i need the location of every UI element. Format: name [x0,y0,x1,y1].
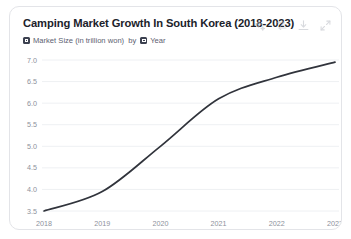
measure-label: Market Size (in trillion won) [33,36,124,45]
plot-area: 7.06.56.05.55.04.54.03.5 201820192020202… [10,49,342,230]
chart-subtitle: Market Size (in trillion won) by Year [23,36,170,45]
measure-field-icon [23,37,30,44]
series-line-market-size [44,62,335,211]
y-axis-tick-label: 3.5 [27,207,37,216]
y-axis-tick-label: 5.0 [27,142,37,151]
x-axis-tick-label: 2023 [327,219,342,228]
x-axis-tick-label: 2021 [211,219,227,228]
subtitle-connector: by [128,36,136,45]
expand-icon[interactable] [319,19,332,32]
download-icon[interactable] [297,19,310,32]
dimension-field-icon [140,37,147,44]
y-axis-tick-label: 4.0 [27,185,37,194]
x-axis-tick-label: 2022 [269,219,285,228]
y-axis-tick-label: 6.5 [27,77,37,86]
x-axis-tick-label: 2020 [152,219,168,228]
x-axis-tick-label: 2018 [36,219,52,228]
y-axis-tick-label: 5.5 [27,120,37,129]
x-axis-labels: 201820192020202120222023 [36,219,342,228]
y-axis-tick-label: 4.5 [27,163,37,172]
sparkle-ai-icon[interactable] [253,19,266,32]
x-axis-tick-label: 2019 [94,219,110,228]
line-chart: 7.06.56.05.55.04.54.03.5 201820192020202… [10,49,342,230]
y-axis-tick-label: 6.0 [27,99,37,108]
header-actions [253,19,332,32]
chart-card: Camping Market Growth In South Korea (20… [9,6,342,230]
sort-icon[interactable] [275,19,288,32]
y-axis-tick-label: 7.0 [27,56,37,65]
y-axis-labels: 7.06.56.05.55.04.54.03.5 [27,56,37,216]
gridlines [42,60,339,211]
dimension-label: Year [150,36,165,45]
